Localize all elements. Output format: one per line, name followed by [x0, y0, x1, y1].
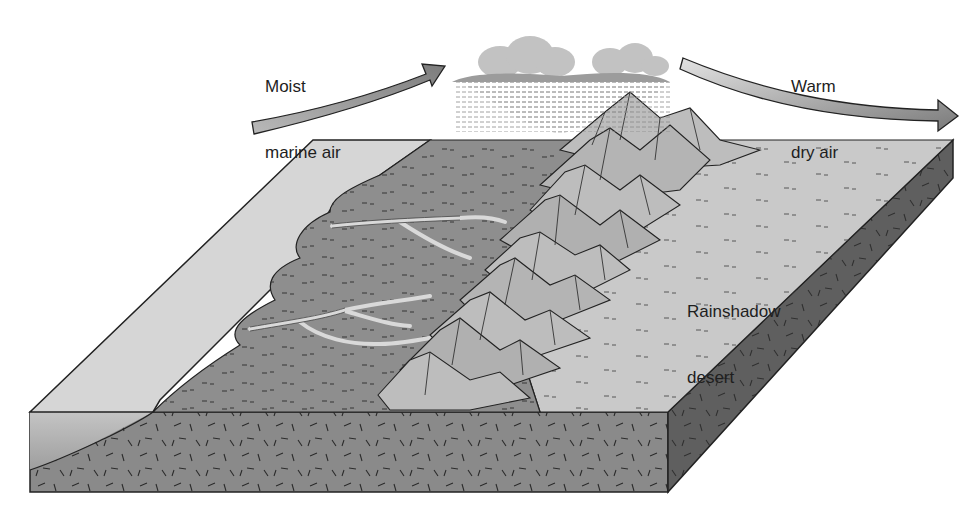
rainshadow-diagram: Moist marine air Warm dry air Rainshadow…	[0, 0, 980, 513]
dry-air-label: Warm dry air	[791, 32, 838, 208]
desert-label-line2: desert	[687, 367, 781, 389]
desert-label-line1: Rainshadow	[687, 301, 781, 323]
moist-air-label-line1: Moist	[265, 76, 341, 98]
rain-cloud	[452, 36, 670, 135]
rainshadow-desert-label: Rainshadow desert	[687, 257, 781, 433]
moist-air-label-line2: marine air	[265, 142, 341, 164]
dry-air-label-line1: Warm	[791, 76, 838, 98]
moist-air-label: Moist marine air	[265, 32, 341, 208]
dry-air-label-line2: dry air	[791, 142, 838, 164]
